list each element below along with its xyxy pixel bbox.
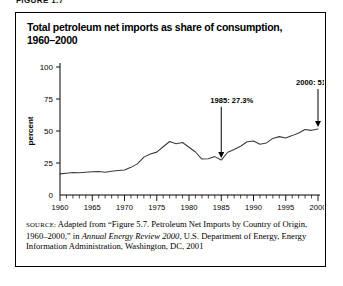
figure-number-label: FIGURE 1.7 (16, 0, 64, 6)
annot-1985-label: 1985: 27.3% (210, 96, 253, 105)
y-tick-label: 100 (40, 63, 54, 72)
x-tick-label: 1960 (52, 203, 69, 212)
figure-frame: Total petroleum net imports as share of … (15, 12, 326, 267)
x-tick-label: 1990 (245, 203, 262, 212)
x-tick-label: 1970 (116, 203, 133, 212)
figure-root: FIGURE 1.7 Total petroleum net imports a… (0, 0, 343, 286)
source-note: SOURCE: Adapted from “Figure 5.7. Petrol… (26, 219, 318, 252)
line-chart-svg: 0255075100 19601965197019751980198519901… (16, 57, 324, 217)
x-tick-label: 1995 (277, 203, 294, 212)
x-tick-label: 1985 (213, 203, 230, 212)
chart-annotations: 1985: 27.3%2000: 51.6% (210, 78, 324, 158)
y-axis-ticks: 0255075100 (40, 63, 60, 200)
x-axis-ticks: 196019651970197519801985199019952000 (52, 195, 324, 212)
x-tick-label: 1980 (181, 203, 198, 212)
y-axis-label: percent (26, 116, 35, 145)
chart-axes (60, 63, 320, 195)
source-publication-title: Annual Energy Review 2000 (82, 231, 180, 241)
y-tick-label: 75 (44, 95, 53, 104)
chart-plot-area: 0255075100 19601965197019751980198519901… (16, 57, 324, 217)
annot-2000-arrow-head (315, 121, 321, 127)
y-tick-label: 25 (44, 159, 53, 168)
x-tick-label: 2000 (310, 203, 324, 212)
source-label: SOURCE: (26, 221, 56, 228)
chart-series (60, 129, 318, 174)
annot-2000-label: 2000: 51.6% (296, 78, 324, 87)
x-tick-label: 1965 (84, 203, 101, 212)
y-tick-label: 0 (49, 191, 54, 200)
series-line-0 (60, 129, 318, 174)
chart-title: Total petroleum net imports as share of … (27, 21, 302, 46)
x-tick-label: 1975 (148, 203, 165, 212)
y-tick-label: 50 (44, 127, 53, 136)
